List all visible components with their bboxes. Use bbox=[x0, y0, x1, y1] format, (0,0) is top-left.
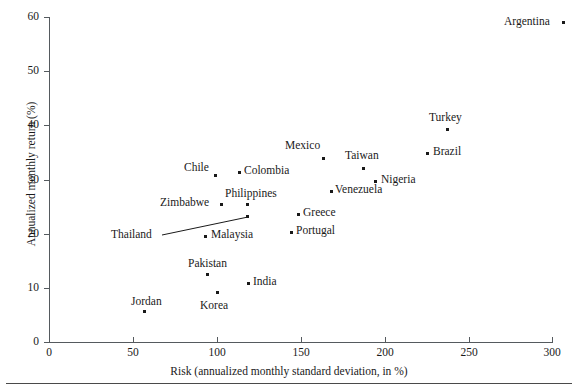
x-tick-200 bbox=[385, 337, 386, 342]
data-point-brazil bbox=[426, 152, 429, 155]
data-point-portugal bbox=[290, 231, 293, 234]
data-point-mexico bbox=[322, 157, 325, 160]
x-tick-label-200: 200 bbox=[365, 347, 405, 359]
point-label-portugal: Portugal bbox=[296, 225, 335, 237]
y-tick-0 bbox=[44, 342, 49, 343]
x-tick-label-100: 100 bbox=[197, 347, 237, 359]
scatter-chart-figure: 0 10 20 30 40 50 60 0 50 100 150 200 250… bbox=[0, 0, 578, 392]
y-tick-50 bbox=[44, 71, 49, 72]
y-tick-label-60: 60 bbox=[11, 11, 39, 23]
x-tick-label-150: 150 bbox=[281, 347, 321, 359]
x-tick-100 bbox=[217, 337, 218, 342]
point-label-taiwan: Taiwan bbox=[345, 150, 379, 162]
x-tick-50 bbox=[133, 337, 134, 342]
y-axis-title: Annualized monthly return (%) bbox=[25, 64, 37, 284]
x-tick-label-50: 50 bbox=[113, 347, 153, 359]
point-label-pakistan: Pakistan bbox=[188, 258, 227, 270]
point-label-nigeria: Nigeria bbox=[381, 174, 415, 186]
point-label-chile: Chile bbox=[184, 162, 209, 174]
data-point-venezuela bbox=[330, 190, 333, 193]
y-tick-20 bbox=[44, 234, 49, 235]
data-point-philippines bbox=[246, 203, 249, 206]
data-point-pakistan bbox=[206, 273, 209, 276]
x-tick-0 bbox=[49, 337, 50, 342]
point-label-thailand: Thailand bbox=[111, 229, 152, 241]
point-label-philippines: Philippines bbox=[225, 188, 277, 200]
data-point-malaysia bbox=[204, 235, 207, 238]
data-point-turkey bbox=[446, 128, 449, 131]
point-label-colombia: Colombia bbox=[244, 165, 289, 177]
x-tick-label-250: 250 bbox=[449, 347, 489, 359]
x-axis-title: Risk (annualized monthly standard deviat… bbox=[0, 365, 578, 377]
y-axis-line bbox=[49, 17, 50, 343]
point-label-argentina: Argentina bbox=[504, 16, 550, 28]
x-axis-line bbox=[49, 342, 553, 343]
data-point-greece bbox=[297, 213, 300, 216]
point-label-zimbabwe: Zimbabwe bbox=[160, 197, 209, 209]
y-tick-40 bbox=[44, 125, 49, 126]
x-tick-label-300: 300 bbox=[532, 347, 572, 359]
y-tick-30 bbox=[44, 180, 49, 181]
data-point-korea bbox=[216, 291, 219, 294]
point-label-mexico: Mexico bbox=[285, 140, 320, 152]
data-point-zimbabwe bbox=[220, 203, 223, 206]
x-tick-300 bbox=[552, 337, 553, 342]
y-tick-10 bbox=[44, 288, 49, 289]
point-label-jordan: Jordan bbox=[131, 296, 162, 308]
data-point-taiwan bbox=[362, 167, 365, 170]
point-label-korea: Korea bbox=[200, 300, 228, 312]
x-tick-label-0: 0 bbox=[29, 347, 69, 359]
point-label-venezuela: Venezuela bbox=[335, 184, 382, 196]
point-label-brazil: Brazil bbox=[433, 146, 461, 158]
y-tick-60 bbox=[44, 17, 49, 18]
y-tick-label-0: 0 bbox=[11, 336, 39, 348]
point-label-india: India bbox=[253, 276, 277, 288]
data-point-thailand bbox=[246, 215, 249, 218]
data-point-colombia bbox=[238, 171, 241, 174]
point-label-turkey: Turkey bbox=[429, 112, 462, 124]
data-point-chile bbox=[214, 174, 217, 177]
data-point-jordan bbox=[143, 310, 146, 313]
point-label-greece: Greece bbox=[303, 207, 336, 219]
bottom-rule bbox=[6, 383, 572, 384]
x-tick-250 bbox=[469, 337, 470, 342]
x-tick-150 bbox=[301, 337, 302, 342]
data-point-india bbox=[247, 282, 250, 285]
data-point-argentina bbox=[562, 21, 565, 24]
point-label-malaysia: Malaysia bbox=[211, 229, 253, 241]
